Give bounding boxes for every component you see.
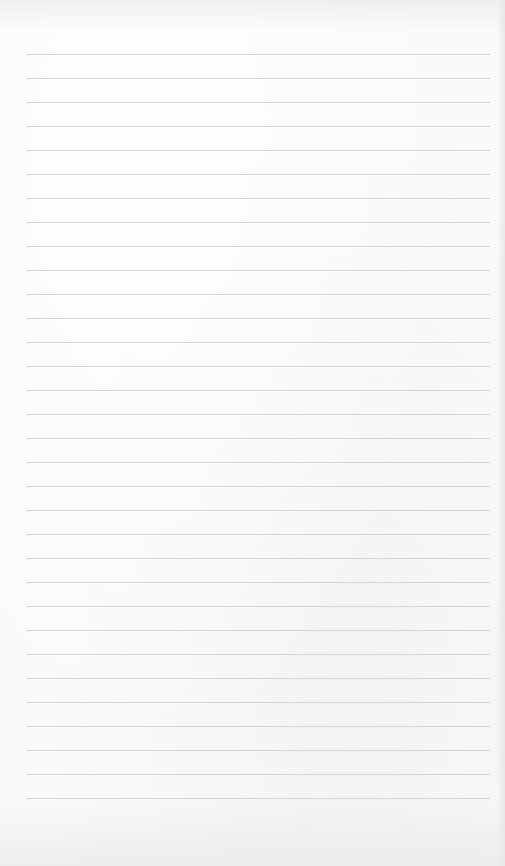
ruled-line <box>26 726 490 727</box>
ruled-line <box>26 654 490 655</box>
ruled-line <box>26 126 490 127</box>
ruled-line <box>26 390 490 391</box>
ruled-line <box>26 510 490 511</box>
ruled-line <box>26 774 490 775</box>
ruled-line <box>26 486 490 487</box>
ruled-line <box>26 606 490 607</box>
ruled-line <box>26 174 490 175</box>
ruled-line <box>26 270 490 271</box>
ruled-line <box>26 150 490 151</box>
ruled-line <box>26 750 490 751</box>
ruled-line <box>26 534 490 535</box>
ruled-line <box>26 414 490 415</box>
lined-paper-page <box>0 0 505 866</box>
ruled-line <box>26 438 490 439</box>
ruled-line <box>26 246 490 247</box>
ruled-line <box>26 102 490 103</box>
ruled-line <box>26 294 490 295</box>
ruled-line <box>26 702 490 703</box>
paper-top-shadow <box>0 0 505 30</box>
paper-right-edge <box>497 0 505 866</box>
ruled-line <box>26 582 490 583</box>
ruled-line <box>26 798 490 799</box>
ruled-line <box>26 54 490 55</box>
ruled-line <box>26 222 490 223</box>
ruled-line <box>26 342 490 343</box>
ruled-line <box>26 318 490 319</box>
ruled-line <box>26 198 490 199</box>
ruled-line <box>26 558 490 559</box>
ruled-line <box>26 462 490 463</box>
ruled-line <box>26 366 490 367</box>
ruled-line <box>26 78 490 79</box>
ruled-line <box>26 678 490 679</box>
ruled-line <box>26 630 490 631</box>
